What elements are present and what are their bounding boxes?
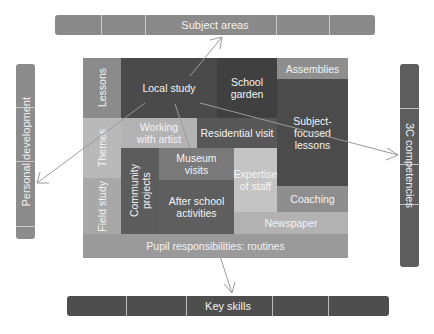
3c-competencies-label: 3C competencies bbox=[404, 123, 416, 208]
block-residential-visit: Residential visit bbox=[197, 118, 277, 148]
block-working-with-artist: Working with artist bbox=[121, 118, 197, 148]
block-pupil-responsibilities: Pupil responsibilities: routines bbox=[83, 234, 348, 258]
personal-development-label: Personal development bbox=[20, 97, 32, 206]
key-skills-label: Key skills bbox=[205, 300, 251, 312]
block-after-school-activities: After school activities bbox=[159, 180, 234, 234]
block-newspaper: Newspaper bbox=[234, 212, 348, 234]
block-assemblies: Assemblies bbox=[277, 58, 348, 79]
activities-block: Lessons Local study School garden Assemb… bbox=[83, 58, 348, 258]
key-skills-bar: Key skills bbox=[67, 296, 389, 316]
block-local-study: Local study bbox=[121, 58, 217, 118]
block-coaching: Coaching bbox=[277, 186, 348, 212]
block-museum-visits: Museum visits bbox=[159, 148, 234, 180]
subject-areas-bar: Subject areas bbox=[55, 15, 375, 35]
block-subject-focused-lessons: Subject- focused lessons bbox=[277, 79, 348, 186]
personal-development-bar: Personal development bbox=[16, 64, 35, 239]
block-field-study: Field study bbox=[83, 178, 121, 234]
subject-areas-label: Subject areas bbox=[181, 19, 248, 31]
3c-competencies-bar: 3C competencies bbox=[400, 64, 419, 267]
block-lessons: Lessons bbox=[83, 58, 121, 118]
block-expertise-of-staff: Expertise of staff bbox=[234, 148, 277, 212]
block-themes: Themes bbox=[83, 118, 121, 178]
block-school-garden: School garden bbox=[217, 58, 277, 118]
arrow-to-key-skills bbox=[220, 256, 232, 293]
block-community-projects: Community projects bbox=[121, 148, 159, 234]
